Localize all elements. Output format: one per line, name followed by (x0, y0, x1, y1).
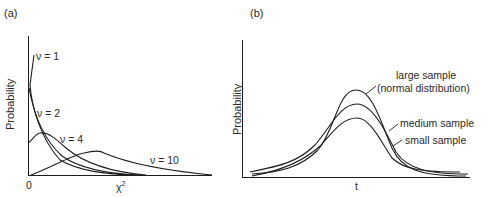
panel-a-y-axis-label: Probability (4, 79, 16, 130)
curve-label-medium-sample: medium sample (400, 118, 474, 129)
panel-b-axes (242, 40, 470, 178)
curve-label-nu-10: ν = 10 (150, 155, 179, 166)
x-axis-origin-label: 0 (26, 180, 32, 191)
curve-nu-2 (29, 88, 140, 175)
panel-b-y-axis-label: Probability (231, 84, 243, 135)
panel-b-curves (250, 86, 468, 176)
curve-label-small-sample: small sample (405, 135, 466, 146)
curve-label-nu-2: ν = 2 (37, 108, 60, 119)
panel-b-label: (b) (250, 7, 263, 19)
leader-medium-sample (389, 124, 398, 131)
curve-large-sample (252, 90, 466, 176)
curve-label-nu-1: ν = 1 (36, 51, 59, 62)
curve-label-large-sample: large sample (396, 70, 456, 81)
leader-large-sample (366, 86, 376, 94)
panel-a-label: (a) (4, 7, 17, 19)
chi-exponent: 2 (122, 180, 126, 187)
curve-label-nu-4: ν = 4 (60, 134, 83, 145)
leader-small-sample (393, 140, 402, 146)
curve-label-normal-distribution: (normal distribution) (377, 83, 470, 94)
figure-canvas (0, 0, 488, 197)
panel-b-x-axis-label: t (355, 181, 358, 192)
panel-a-x-axis-label: χ2 (116, 180, 125, 192)
